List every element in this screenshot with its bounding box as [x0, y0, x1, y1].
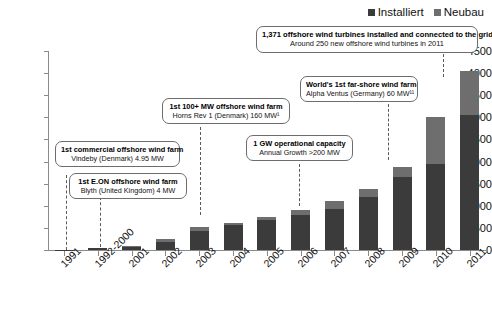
bar-segment-neubau-2011: [460, 71, 479, 115]
bar-2002[interactable]: [156, 239, 175, 250]
callout-blyth[interactable]: 1st E.ON offshore wind farm Blyth (Unite…: [69, 173, 187, 199]
bar-segment-neubau-2009: [393, 167, 412, 177]
callout-vindeby-line1: 1st commercial offshore wind farm: [61, 145, 174, 154]
bar-segment-installiert-2008: [359, 197, 378, 250]
bar-segment-neubau-2010: [426, 117, 445, 163]
bar-segment-installiert-2002: [156, 242, 175, 250]
callout-turbine-total-line2: Around 250 new offshore wind turbines in…: [262, 39, 472, 48]
callout-one-gw-line2: Annual Growth >200 MW: [252, 148, 347, 157]
callout-alpha-ventus[interactable]: World's 1st far-shore wind farm Alpha Ve…: [300, 76, 418, 102]
y-tick-4000: [44, 73, 49, 74]
bar-2009[interactable]: [393, 167, 412, 250]
callout-one-gw[interactable]: 1 GW operational capacity Annual Growth …: [246, 135, 353, 161]
callout-turbine-total-line1: 1,371 offshore wind turbines installed a…: [262, 30, 472, 39]
callout-alpha-ventus-line1: World's 1st far-shore wind farm: [306, 80, 412, 89]
bar-segment-installiert-2001: [122, 247, 141, 250]
leader-line-horns-rev: [200, 127, 201, 215]
bar-2010[interactable]: [426, 117, 445, 250]
bar-2003[interactable]: [190, 227, 209, 250]
callout-blyth-line2: Blyth (United Kingdom) 4 MW: [75, 186, 181, 195]
callout-horns-rev-line2: Horns Rev 1 (Denmark) 160 MW¹: [168, 111, 284, 120]
leader-line-turbine-total: [443, 54, 444, 77]
callout-vindeby[interactable]: 1st commercial offshore wind farm Vindeb…: [55, 141, 180, 167]
bar-2011[interactable]: [460, 71, 479, 250]
bar-1992-2000[interactable]: [88, 248, 107, 250]
y-tick-1000: [44, 206, 49, 207]
leader-line-vindeby: [66, 175, 67, 250]
leader-line-alpha-ventus: [388, 104, 389, 160]
bar-segment-installiert-2011: [460, 115, 479, 250]
bar-segment-neubau-2008: [359, 189, 378, 197]
bar-2005[interactable]: [257, 217, 276, 250]
bar-2001[interactable]: [122, 246, 141, 250]
y-tick-2000: [44, 162, 49, 163]
bar-segment-installiert-2010: [426, 164, 445, 250]
bar-segment-installiert-2006: [291, 215, 310, 250]
bar-segment-installiert-2007: [325, 209, 344, 250]
y-tick-500: [44, 228, 49, 229]
bar-segment-installiert-2009: [393, 177, 412, 250]
bar-2007[interactable]: [325, 201, 344, 250]
x-tick-label-1991: 1991: [58, 244, 83, 269]
callout-turbine-total[interactable]: 1,371 offshore wind turbines installed a…: [256, 26, 478, 53]
bar-segment-installiert-1992-2000: [88, 248, 107, 250]
chart-root: Installiert Neubau 450040003500300025002…: [0, 0, 492, 317]
leader-line-one-gw: [299, 164, 300, 206]
bar-segment-installiert-2004: [224, 225, 243, 250]
callout-horns-rev-line1: 1st 100+ MW offshore wind farm: [168, 102, 284, 111]
y-tick-3000: [44, 117, 49, 118]
callout-blyth-line1: 1st E.ON offshore wind farm: [75, 177, 181, 186]
bar-segment-installiert-2003: [190, 231, 209, 250]
plot-area: 450040003500300025002000150010005000 199…: [0, 0, 492, 317]
bar-segment-neubau-2007: [325, 201, 344, 209]
bar-segment-installiert-2005: [257, 220, 276, 250]
y-tick-2500: [44, 139, 49, 140]
leader-line-blyth: [100, 197, 101, 247]
callout-horns-rev[interactable]: 1st 100+ MW offshore wind farm Horns Rev…: [162, 98, 290, 124]
callout-vindeby-line2: Vindeby (Denmark) 4.95 MW: [61, 154, 174, 163]
callout-alpha-ventus-line2: Alpha Ventus (Germany) 60 MW¹¹: [306, 89, 412, 98]
y-tick-4500: [44, 51, 49, 52]
y-tick-3500: [44, 95, 49, 96]
y-axis-line: [48, 51, 49, 250]
y-tick-1500: [44, 184, 49, 185]
bar-2006[interactable]: [291, 210, 310, 250]
bar-2008[interactable]: [359, 189, 378, 250]
y-tick-0: [44, 250, 49, 251]
bar-2004[interactable]: [224, 223, 243, 250]
callout-one-gw-line1: 1 GW operational capacity: [252, 139, 347, 148]
